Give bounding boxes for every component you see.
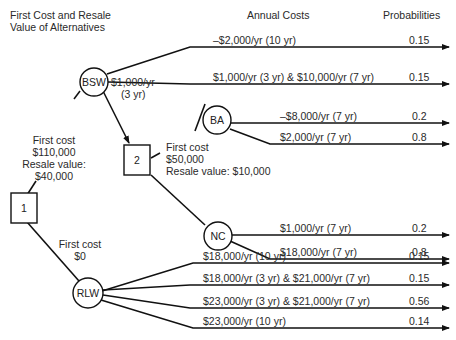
branch-label: $23,000/yr (3 yr) & $21,000/yr (7 yr) [203, 295, 370, 307]
branch-label: –$8,000/yr (7 yr) [280, 110, 357, 122]
branch-probability: 0.15 [409, 250, 429, 262]
chance-node-ba: BA [203, 106, 231, 134]
branch-probability: 0.15 [409, 272, 429, 284]
bsw-to-node2-duration: (3 yr) [121, 88, 146, 100]
chance-node-nc: NC [204, 222, 232, 250]
bsw-first-cost-label: First cost [14, 134, 94, 146]
header-alternatives-line2: Value of Alternatives [10, 21, 105, 33]
header-alternatives-line1: First Cost and Resale [10, 9, 111, 21]
bsw-first-cost-value: $110,000 [14, 146, 94, 158]
branch-label: $1,000/yr (7 yr) [280, 222, 351, 234]
branch-label: $2,000/yr (7 yr) [280, 131, 351, 143]
branch-probability: 0.15 [409, 34, 429, 46]
chance-node-bsw: BSW [80, 68, 108, 96]
branch-probability: 0.15 [409, 71, 429, 83]
bsw-to-node2-cost: $1,000/yr [111, 76, 155, 88]
branch-label: $18,000/yr (10 yr) [203, 250, 286, 262]
branch-probability: 0.56 [409, 295, 429, 307]
branch-probability: 0.2 [412, 222, 427, 234]
branch-label: $18,000/yr (3 yr) & $21,000/yr (7 yr) [203, 272, 370, 284]
node2-resale-value: Resale value: $10,000 [166, 165, 271, 177]
branch-label: –$2,000/yr (10 yr) [213, 34, 296, 46]
chance-node-rlw: RLW [73, 278, 103, 308]
node2-first-cost-label: First cost [166, 141, 209, 153]
bsw-resale-value: $40,000 [14, 170, 94, 182]
branch-probability: 0.14 [409, 315, 429, 327]
branch-probability: 0.8 [412, 131, 427, 143]
decision-node-2: 2 [124, 145, 150, 175]
branch-label: $18,000/yr (7 yr) [280, 246, 357, 258]
branch-label: $23,000/yr (10 yr) [203, 315, 286, 327]
decision-node-1: 1 [11, 193, 37, 223]
rlw-first-cost-label: First cost [40, 238, 120, 250]
header-annual-costs: Annual Costs [247, 9, 309, 21]
bsw-resale-label: Resale value: [14, 158, 94, 170]
branch-probability: 0.2 [412, 110, 427, 122]
rlw-first-cost-value: $0 [40, 250, 120, 262]
header-probabilities: Probabilities [383, 9, 440, 21]
branch-label: $1,000/yr (3 yr) & $10,000/yr (7 yr) [213, 71, 374, 83]
node2-first-cost-value: $50,000 [166, 153, 204, 165]
